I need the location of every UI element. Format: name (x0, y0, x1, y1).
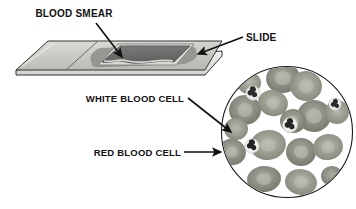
label-blood-smear: BLOOD SMEAR (35, 8, 113, 19)
label-red-blood-cell: RED BLOOD CELL (94, 147, 181, 158)
white-blood-cell (329, 98, 341, 110)
red-blood-cell (321, 166, 343, 186)
label-white-blood-cell: WHITE BLOOD CELL (86, 93, 184, 104)
figure-canvas: BLOOD SMEAR SLIDE WHITE BLOOD CELL RED B… (0, 0, 356, 209)
white-blood-cell (283, 118, 298, 133)
blood-smear-diagram: BLOOD SMEAR SLIDE WHITE BLOOD CELL RED B… (0, 0, 356, 209)
white-blood-cell (245, 139, 259, 153)
glass-slide (16, 41, 222, 75)
white-blood-cell (246, 86, 260, 100)
microscope-field (214, 60, 352, 198)
label-slide: SLIDE (246, 32, 277, 43)
